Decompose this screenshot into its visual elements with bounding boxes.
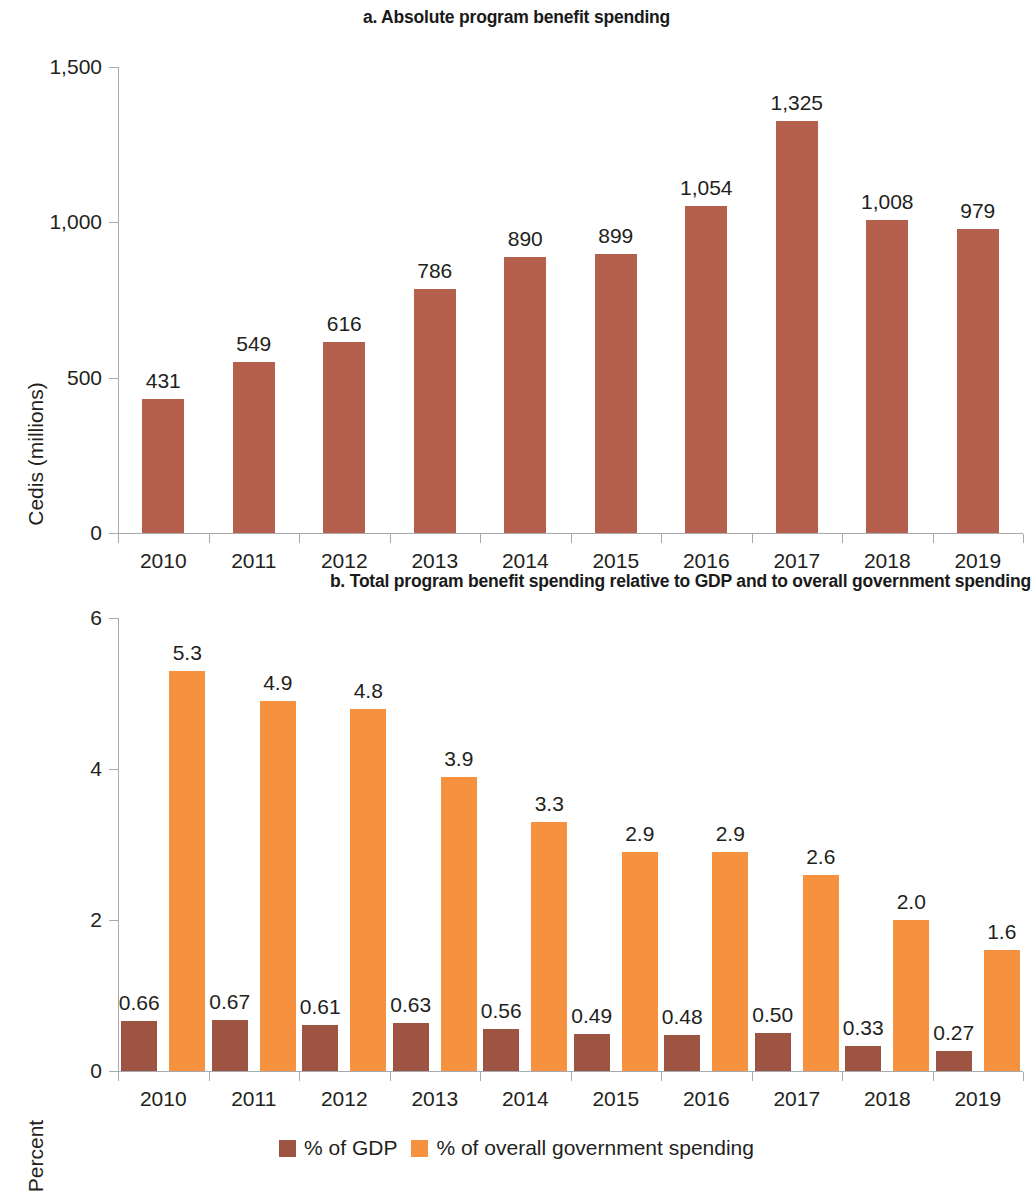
bar-value-label: 0.50 — [752, 1003, 793, 1027]
bar — [142, 399, 184, 533]
panel-b: b. Total program benefit spending relati… — [0, 566, 1033, 1192]
y-axis-tick — [109, 1071, 118, 1072]
bar-value-label: 4.9 — [263, 671, 292, 695]
bar-value-label: 1,008 — [861, 190, 914, 214]
y-axis-title: Cedis (millions) — [24, 382, 48, 526]
x-axis-tick — [299, 534, 300, 543]
x-axis-tick — [118, 1072, 119, 1081]
bar — [483, 1029, 519, 1071]
y-axis-tick-label: 0 — [40, 521, 102, 545]
legend-item: % of GDP — [279, 1136, 397, 1160]
x-axis-tick-label: 2010 — [118, 1087, 209, 1111]
x-axis-tick — [1023, 1072, 1024, 1081]
bar — [302, 1025, 338, 1071]
x-axis-tick — [661, 534, 662, 543]
bar-value-label: 5.3 — [173, 641, 202, 665]
y-axis-tick — [109, 618, 118, 619]
bar — [893, 920, 929, 1071]
bar-value-label: 431 — [146, 369, 181, 393]
bar-value-label: 4.8 — [354, 679, 383, 703]
bar — [393, 1023, 429, 1071]
x-axis-tick — [299, 1072, 300, 1081]
bar-value-label: 2.6 — [806, 845, 835, 869]
bar-value-label: 786 — [417, 259, 452, 283]
x-axis-tick — [209, 534, 210, 543]
y-axis-tick-label: 500 — [40, 366, 102, 390]
y-axis-tick — [109, 67, 118, 68]
bar — [350, 709, 386, 1071]
bar — [233, 362, 275, 533]
panel-a-plot-area: 05001,0001,500Cedis (millions)2010201120… — [0, 34, 1033, 566]
bar-value-label: 3.3 — [535, 792, 564, 816]
x-axis-tick — [1023, 534, 1024, 543]
x-axis-tick — [390, 1072, 391, 1081]
x-axis-tick-label: 2019 — [933, 1087, 1024, 1111]
bar — [803, 875, 839, 1071]
legend-swatch-gdp — [279, 1140, 296, 1157]
x-axis-tick-label: 2013 — [390, 1087, 481, 1111]
chart-legend: % of GDP% of overall government spending — [0, 1136, 1033, 1160]
x-axis-tick — [933, 1072, 934, 1081]
bar-value-label: 2.9 — [625, 822, 654, 846]
bar — [936, 1051, 972, 1071]
x-axis-tick-label: 2017 — [752, 1087, 843, 1111]
panel-b-title: b. Total program benefit spending relati… — [0, 566, 1033, 596]
x-axis-tick — [571, 1072, 572, 1081]
bar — [664, 1035, 700, 1071]
x-axis-tick — [752, 1072, 753, 1081]
bar-value-label: 0.27 — [933, 1021, 974, 1045]
y-axis-tick-label: 4 — [40, 757, 102, 781]
bar-value-label: 0.63 — [390, 993, 431, 1017]
y-axis-tick — [109, 222, 118, 223]
bar — [441, 777, 477, 1071]
x-axis-tick-label: 2018 — [842, 1087, 933, 1111]
panel-a-title: a. Absolute program benefit spending — [0, 0, 1033, 34]
panel-b-plot-area: 0246Percent20102011201220132014201520162… — [0, 596, 1033, 1132]
bar-value-label: 0.56 — [481, 999, 522, 1023]
bar — [957, 229, 999, 533]
bar-value-label: 0.48 — [662, 1005, 703, 1029]
bar-value-label: 0.49 — [571, 1004, 612, 1028]
y-axis-tick — [109, 378, 118, 379]
y-axis-line — [118, 67, 119, 533]
bar-value-label: 0.66 — [119, 991, 160, 1015]
bar — [866, 220, 908, 533]
bar-value-label: 0.33 — [843, 1016, 884, 1040]
x-axis-tick — [390, 534, 391, 543]
y-axis-tick — [109, 533, 118, 534]
panel-a: a. Absolute program benefit spending 050… — [0, 0, 1033, 566]
x-axis-tick — [118, 534, 119, 543]
bar — [169, 671, 205, 1071]
bar — [121, 1021, 157, 1071]
y-axis-tick-label: 1,500 — [40, 55, 102, 79]
bar — [323, 342, 365, 533]
legend-swatch-govspend — [411, 1140, 428, 1157]
x-axis-tick-label: 2016 — [661, 1087, 752, 1111]
bar-value-label: 2.9 — [716, 822, 745, 846]
bar-value-label: 3.9 — [444, 747, 473, 771]
bar — [212, 1020, 248, 1071]
bar-value-label: 2.0 — [897, 890, 926, 914]
legend-item: % of overall government spending — [411, 1136, 754, 1160]
bar — [414, 289, 456, 533]
bar — [595, 254, 637, 533]
bar — [504, 257, 546, 533]
bar — [622, 852, 658, 1071]
x-axis-tick-label: 2012 — [299, 1087, 390, 1111]
bar-value-label: 890 — [508, 227, 543, 251]
bar-value-label: 1,054 — [680, 176, 733, 200]
bar — [685, 206, 727, 533]
legend-label: % of GDP — [304, 1136, 397, 1160]
x-axis-tick — [933, 534, 934, 543]
bar-value-label: 0.61 — [300, 995, 341, 1019]
bar-value-label: 1,325 — [770, 91, 823, 115]
bar — [755, 1033, 791, 1071]
x-axis-tick — [661, 1072, 662, 1081]
bar-value-label: 616 — [327, 312, 362, 336]
y-axis-tick — [109, 920, 118, 921]
y-axis-tick — [109, 769, 118, 770]
bar — [531, 822, 567, 1071]
y-axis-tick-label: 0 — [40, 1059, 102, 1083]
y-axis-tick-label: 1,000 — [40, 210, 102, 234]
bar-value-label: 979 — [960, 199, 995, 223]
